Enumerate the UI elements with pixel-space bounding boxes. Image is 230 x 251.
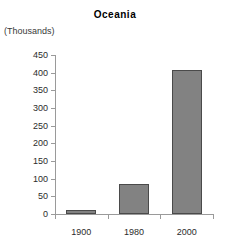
x-axis-line bbox=[55, 214, 214, 215]
x-axis-tick bbox=[160, 215, 161, 219]
y-axis-tick bbox=[51, 108, 55, 109]
x-axis-tick-label: 2000 bbox=[160, 228, 214, 237]
y-axis-tick-label: 0 bbox=[8, 210, 48, 219]
y-axis-tick-label: 50 bbox=[8, 192, 48, 201]
y-axis-tick bbox=[51, 161, 55, 162]
y-axis-tick bbox=[51, 196, 55, 197]
y-axis-tick bbox=[51, 179, 55, 180]
y-axis-tick-label: 450 bbox=[8, 51, 48, 60]
y-axis-units-caption: (Thousands) bbox=[4, 26, 55, 36]
y-axis-tick bbox=[51, 126, 55, 127]
y-axis-tick bbox=[51, 55, 55, 56]
bar-1980 bbox=[119, 184, 149, 214]
y-axis-tick bbox=[51, 90, 55, 91]
bar-1900 bbox=[66, 210, 96, 214]
x-axis-tick-label: 1980 bbox=[107, 228, 161, 237]
y-axis-tick-label: 100 bbox=[8, 175, 48, 184]
chart-title: Oceania bbox=[0, 9, 230, 20]
bar-2000 bbox=[172, 70, 202, 214]
x-axis-tick bbox=[55, 215, 56, 219]
y-axis-tick-label: 350 bbox=[8, 86, 48, 95]
y-axis-tick-label: 250 bbox=[8, 122, 48, 131]
x-axis-tick bbox=[108, 215, 109, 219]
x-axis-tick bbox=[213, 215, 214, 219]
y-axis-tick bbox=[51, 73, 55, 74]
y-axis-tick-label: 400 bbox=[8, 69, 48, 78]
y-axis-tick-label: 200 bbox=[8, 139, 48, 148]
y-axis-tick-label: 150 bbox=[8, 157, 48, 166]
y-axis-tick-label: 300 bbox=[8, 104, 48, 113]
x-axis-tick-label: 1900 bbox=[54, 228, 108, 237]
y-axis-tick bbox=[51, 143, 55, 144]
y-axis-line bbox=[55, 55, 56, 215]
bar-chart: Oceania (Thousands) 05010015020025030035… bbox=[0, 0, 230, 251]
